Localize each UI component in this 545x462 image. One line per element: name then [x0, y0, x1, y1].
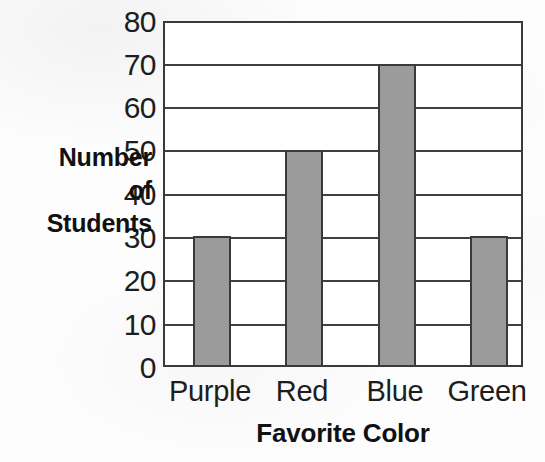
bar-chart: 80 70 60 50 40 30 20 10 0 Purple Red Blu… — [0, 0, 545, 462]
gridline-40 — [165, 194, 521, 196]
y-axis-title: Number of Students — [0, 141, 152, 240]
bar-red[interactable] — [285, 150, 323, 365]
y-axis-title-line-1: Number — [0, 141, 152, 174]
y-tick-10: 10 — [98, 310, 156, 340]
y-axis-title-line-3: Students — [0, 207, 152, 240]
x-axis-title: Favorite Color — [163, 418, 523, 448]
y-tick-70: 70 — [98, 50, 156, 80]
plot-area — [163, 21, 523, 367]
y-axis-title-line-2: of — [0, 174, 152, 207]
x-tick-green: Green — [417, 374, 545, 408]
bar-purple[interactable] — [193, 236, 231, 365]
bar-blue[interactable] — [378, 64, 416, 365]
y-tick-20: 20 — [98, 266, 156, 296]
bar-green[interactable] — [470, 236, 508, 365]
gridline-70 — [165, 64, 521, 66]
gridline-60 — [165, 107, 521, 109]
y-tick-60: 60 — [98, 93, 156, 123]
y-tick-80: 80 — [98, 7, 156, 37]
gridline-50 — [165, 150, 521, 152]
